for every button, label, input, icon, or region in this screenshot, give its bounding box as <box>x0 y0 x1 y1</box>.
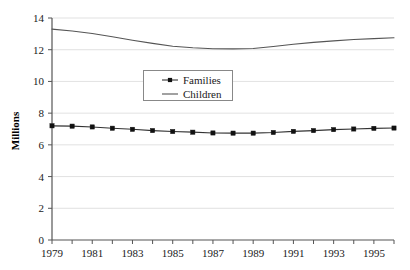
data-point-marker <box>251 131 255 135</box>
x-tick-label: 1991 <box>282 247 304 259</box>
y-tick-label: 14 <box>33 12 45 24</box>
data-point-marker <box>130 127 134 131</box>
data-point-marker <box>191 130 195 134</box>
x-tick-label: 1981 <box>81 247 103 259</box>
y-tick-label: 2 <box>39 202 45 214</box>
y-axis-tick-labels: 02468101214 <box>33 12 45 246</box>
gridlines-group <box>52 18 394 208</box>
y-axis-title: Millions <box>9 111 21 150</box>
chart-container: 02468101214 1979198119831985198719891991… <box>0 0 410 270</box>
x-tick-label: 1985 <box>162 247 185 259</box>
x-axis-tick-labels: 197919811983198519871989199119931995 <box>41 247 385 259</box>
y-tick-label: 10 <box>33 75 45 87</box>
legend-label-families: Families <box>183 74 221 86</box>
x-tick-label: 1979 <box>41 247 64 259</box>
data-point-marker <box>70 124 74 128</box>
x-tick-label: 1987 <box>202 247 225 259</box>
data-point-marker <box>392 126 396 130</box>
y-tick-label: 8 <box>39 107 45 119</box>
data-point-marker <box>332 128 336 132</box>
y-tick-label: 0 <box>39 234 45 246</box>
legend-swatch-marker <box>168 78 172 82</box>
x-tick-label: 1989 <box>242 247 265 259</box>
data-point-marker <box>90 125 94 129</box>
series-line-children <box>52 29 394 49</box>
y-tick-label: 4 <box>39 171 45 183</box>
data-point-marker <box>50 124 54 128</box>
data-point-marker <box>171 129 175 133</box>
x-tick-label: 1983 <box>121 247 144 259</box>
data-point-marker <box>110 126 114 130</box>
x-tick-label: 1995 <box>363 247 386 259</box>
data-point-marker <box>211 131 215 135</box>
data-point-marker <box>150 128 154 132</box>
data-point-marker <box>271 130 275 134</box>
data-point-marker <box>291 129 295 133</box>
y-tick-label: 6 <box>39 139 45 151</box>
data-point-marker <box>352 127 356 131</box>
chart-legend: FamiliesChildren <box>144 71 233 101</box>
x-tick-label: 1993 <box>323 247 346 259</box>
data-point-marker <box>311 128 315 132</box>
line-chart: 02468101214 1979198119831985198719891991… <box>0 0 410 270</box>
data-point-marker <box>372 126 376 130</box>
legend-label-children: Children <box>183 88 222 100</box>
x-axis-ticks <box>52 240 394 244</box>
series-line-families <box>52 126 394 133</box>
y-tick-label: 12 <box>33 44 44 56</box>
data-point-marker <box>231 131 235 135</box>
